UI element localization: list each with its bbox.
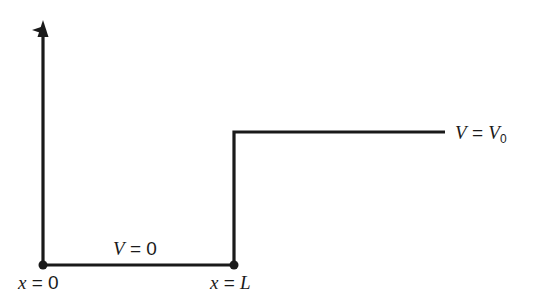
origin-point xyxy=(39,261,48,270)
arrow-head-icon xyxy=(38,20,49,37)
step-position-label: x = L xyxy=(209,272,251,293)
potential-profile xyxy=(43,132,445,265)
potential-diagram: V = 0 V = V0 x = 0 x = L xyxy=(0,0,548,300)
region-left-label: V = 0 xyxy=(113,238,157,259)
origin-label: x = 0 xyxy=(17,272,59,293)
step-point xyxy=(230,261,239,270)
region-right-label: V = V0 xyxy=(455,122,507,146)
